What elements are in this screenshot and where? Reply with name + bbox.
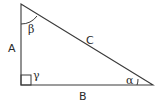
- side-b-label: B: [79, 90, 87, 102]
- alpha-angle-arc: [137, 79, 138, 85]
- angle-gamma-label: γ: [33, 69, 40, 82]
- side-c-label: C: [86, 34, 94, 47]
- right-angle-marker: [21, 75, 31, 85]
- angle-alpha-label: α: [126, 74, 134, 87]
- angle-beta-label: β: [28, 23, 34, 36]
- triangle-diagram: A B C β γ α: [0, 0, 162, 102]
- side-a-label: A: [8, 42, 16, 55]
